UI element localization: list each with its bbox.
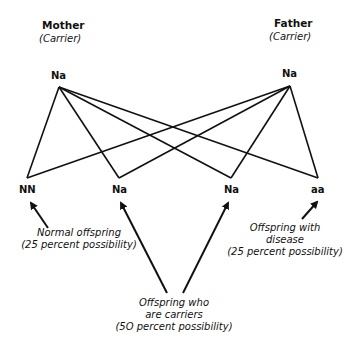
annotation-carriers: Offspring who are carriers (5O percent p… <box>112 297 236 333</box>
annotation-disease-line1: Offspring with <box>226 222 344 234</box>
annotation-disease: Offspring with disease (25 percent possi… <box>226 222 344 258</box>
annotation-carriers-line3: (5O percent possibility) <box>112 321 236 333</box>
mother-title: Mother <box>42 19 84 31</box>
father-genotype: Na <box>282 68 297 79</box>
mother-status: (Carrier) <box>39 33 81 45</box>
annotation-normal-line2: (25 percent possibility) <box>20 239 138 251</box>
arrow-normal <box>31 203 48 228</box>
offspring-genotype-na-1: Na <box>112 184 127 195</box>
mother-genotype: Na <box>51 70 66 81</box>
father-title: Father <box>274 17 312 29</box>
offspring-genotype-aa: aa <box>311 184 325 195</box>
father-status: (Carrier) <box>269 31 311 43</box>
annotation-disease-line3: (25 percent possibility) <box>226 246 344 258</box>
annotation-carriers-line2: are carriers <box>112 309 236 321</box>
offspring-genotype-na-2: Na <box>224 184 239 195</box>
annotation-disease-line2: disease <box>226 234 344 246</box>
annotation-normal-line1: Normal offspring <box>20 227 138 239</box>
annotation-carriers-line1: Offspring who <box>112 297 236 309</box>
arrow-carrier-right <box>183 203 228 293</box>
offspring-genotype-nn: NN <box>19 184 36 195</box>
annotation-normal: Normal offspring (25 percent possibility… <box>20 227 138 251</box>
arrow-disease <box>302 202 317 219</box>
